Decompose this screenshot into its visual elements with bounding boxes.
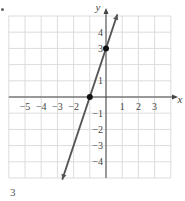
x-tick-label: −2	[68, 101, 79, 112]
y-tick-label: −4	[92, 156, 103, 167]
x-tick-label: −3	[52, 101, 63, 112]
line-arrow-icon	[61, 174, 66, 180]
intercept-point	[103, 45, 109, 51]
y-tick-label: 1	[98, 75, 103, 86]
y-tick-label: −3	[92, 140, 103, 151]
y-axis-arrow-icon	[104, 8, 109, 14]
line-arrow-icon	[113, 14, 118, 20]
x-tick-label: 2	[136, 101, 141, 112]
x-tick-label: 3	[152, 101, 157, 112]
y-tick-label: −2	[92, 124, 103, 135]
y-tick-label: 4	[98, 27, 103, 38]
y-axis-label: y	[95, 1, 101, 13]
y-tick-label: −1	[92, 108, 103, 119]
x-tick-label: 1	[120, 101, 125, 112]
page-number: 3	[10, 186, 16, 198]
x-axis-label: x	[177, 93, 183, 105]
x-tick-label: −5	[20, 101, 31, 112]
intercept-point	[87, 94, 93, 100]
x-tick-label: −4	[36, 101, 47, 112]
line-graph: xy−5−4−3−2123431−1−2−3−4	[0, 0, 185, 201]
y-tick-label: 3	[98, 43, 103, 54]
